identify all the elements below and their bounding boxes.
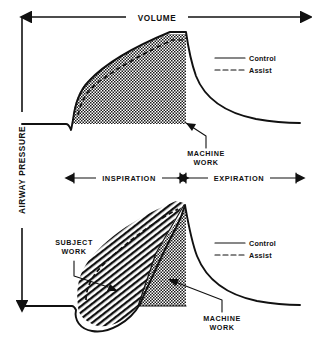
machine-work-bottom-line2: WORK xyxy=(209,323,234,332)
volume-axis-label: VOLUME xyxy=(126,10,188,24)
panel-controlled-ventilation: MACHINE WORK Control Assist xyxy=(22,32,300,167)
panel-assisted-ventilation: SUBJECT WORK MACHINE WORK Control Assist xyxy=(22,201,300,332)
legend-bottom: Control Assist xyxy=(215,239,276,260)
machine-work-top-line2: WORK xyxy=(193,158,218,167)
ventilation-pressure-volume-figure: VOLUME AIRWAY PRESSURE MACHINE WORK Cont… xyxy=(0,0,312,345)
inspiration-label: INSPIRATION xyxy=(102,174,156,183)
machine-work-annotation-top: MACHINE WORK xyxy=(186,123,225,167)
machine-work-region-top xyxy=(72,34,186,124)
legend-assist-label-bottom: Assist xyxy=(249,251,272,260)
legend-control-label-bottom: Control xyxy=(249,239,276,248)
subject-work-line1: SUBJECT xyxy=(55,238,93,247)
pressure-axis-label-text: AIRWAY PRESSURE xyxy=(18,126,27,214)
expiration-label: EXPIRATION xyxy=(214,174,265,183)
machine-work-bottom-line1: MACHINE xyxy=(203,314,241,323)
legend-control-label-top: Control xyxy=(249,54,276,63)
subject-work-line2: WORK xyxy=(61,247,86,256)
volume-axis-label-text: VOLUME xyxy=(138,14,177,23)
legend-top: Control Assist xyxy=(215,54,276,75)
pressure-axis-label: AIRWAY PRESSURE xyxy=(15,112,30,228)
legend-assist-label-top: Assist xyxy=(249,66,272,75)
phase-bar: INSPIRATION EXPIRATION xyxy=(74,171,296,185)
machine-work-top-line1: MACHINE xyxy=(187,149,225,158)
